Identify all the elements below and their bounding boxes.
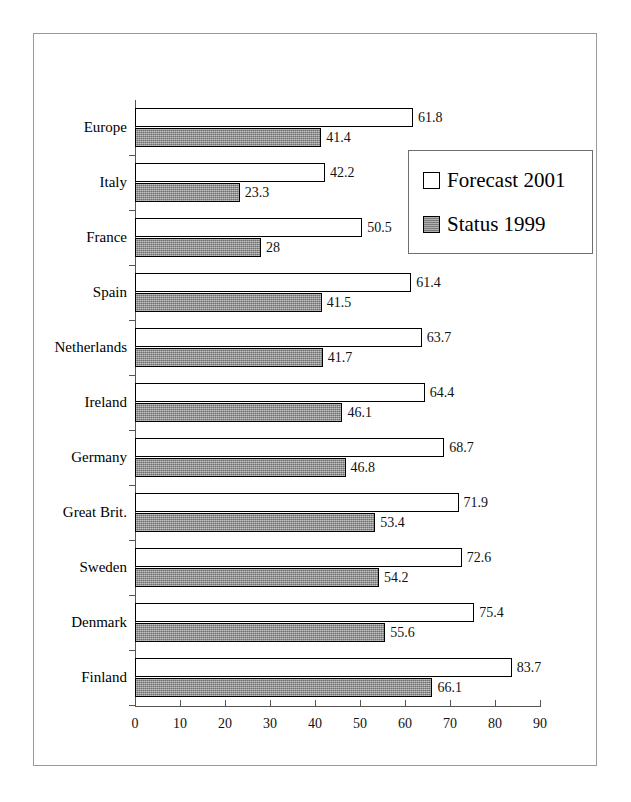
legend-item-forecast-2001: Forecast 2001 [423, 165, 565, 195]
y-axis-label-europe: Europe [7, 118, 127, 136]
y-axis-label-ireland: Ireland [7, 393, 127, 411]
bar-status-1999 [135, 403, 342, 422]
bar-group: 63.741.7 [135, 328, 540, 367]
bar-value-label: 71.9 [464, 493, 489, 512]
bar-status-1999 [135, 183, 240, 202]
bar-value-label: 83.7 [517, 658, 542, 677]
x-axis-tick-label: 0 [115, 716, 155, 732]
bar-value-label: 50.5 [367, 218, 392, 237]
x-axis-tick [495, 700, 496, 707]
bar-forecast-2001 [135, 273, 411, 292]
y-axis-label-netherlands: Netherlands [7, 338, 127, 356]
bar-group: 75.455.6 [135, 603, 540, 642]
bar-forecast-2001 [135, 383, 425, 402]
x-axis-tick-label: 70 [430, 716, 470, 732]
bar-forecast-2001 [135, 548, 462, 567]
bar-status-1999 [135, 513, 375, 532]
bar-value-label: 75.4 [479, 603, 504, 622]
bar-value-label: 68.7 [449, 438, 474, 457]
x-axis-tick [180, 700, 181, 707]
bar-value-label: 23.3 [245, 183, 270, 202]
legend-label-forecast: Forecast 2001 [447, 170, 565, 191]
x-axis-tick-label: 60 [385, 716, 425, 732]
bar-group: 71.953.4 [135, 493, 540, 532]
x-axis-tick [315, 700, 316, 707]
x-axis-tick [405, 700, 406, 707]
x-axis-tick [270, 700, 271, 707]
bar-status-1999 [135, 128, 321, 147]
bar-group: 61.441.5 [135, 273, 540, 312]
legend-swatch-forecast-icon [423, 172, 440, 189]
x-axis-tick [225, 700, 226, 707]
bar-value-label: 46.8 [351, 458, 376, 477]
bar-forecast-2001 [135, 328, 422, 347]
y-axis-label-sweden: Sweden [7, 558, 127, 576]
x-axis-tick-label: 30 [250, 716, 290, 732]
y-axis-label-finland: Finland [7, 668, 127, 686]
bar-forecast-2001 [135, 438, 444, 457]
x-axis-tick [360, 700, 361, 707]
bar-value-label: 28 [266, 238, 280, 257]
y-axis-label-spain: Spain [7, 283, 127, 301]
bar-group: 83.766.1 [135, 658, 540, 697]
bar-value-label: 41.7 [328, 348, 353, 367]
bar-value-label: 54.2 [384, 568, 409, 587]
bar-value-label: 61.8 [418, 108, 443, 127]
bar-value-label: 41.5 [327, 293, 352, 312]
y-axis-label-italy: Italy [7, 173, 127, 191]
x-axis-tick [450, 700, 451, 707]
x-axis-tick [135, 700, 136, 707]
x-axis-tick-label: 10 [160, 716, 200, 732]
bar-forecast-2001 [135, 108, 413, 127]
bar-group: 61.841.4 [135, 108, 540, 147]
y-axis-label-great-brit: Great Brit. [7, 503, 127, 521]
bar-forecast-2001 [135, 603, 474, 622]
bar-group: 72.654.2 [135, 548, 540, 587]
bar-status-1999 [135, 348, 323, 367]
bar-value-label: 46.1 [347, 403, 372, 422]
x-axis-tick-label: 40 [295, 716, 335, 732]
bar-status-1999 [135, 623, 385, 642]
x-axis-tick-label: 20 [205, 716, 245, 732]
bar-group: 64.446.1 [135, 383, 540, 422]
bar-value-label: 72.6 [467, 548, 492, 567]
bar-group: 68.746.8 [135, 438, 540, 477]
chart-figure: EuropeItalyFranceSpainNetherlandsIreland… [0, 0, 631, 802]
bar-status-1999 [135, 293, 322, 312]
legend-label-status: Status 1999 [447, 214, 546, 235]
bar-forecast-2001 [135, 163, 325, 182]
bar-value-label: 53.4 [380, 513, 405, 532]
bar-forecast-2001 [135, 218, 362, 237]
y-axis-label-germany: Germany [7, 448, 127, 466]
x-axis-line [135, 706, 541, 707]
bar-forecast-2001 [135, 658, 512, 677]
legend-item-status-1999: Status 1999 [423, 209, 546, 239]
bar-value-label: 41.4 [326, 128, 351, 147]
x-axis-tick-label: 90 [520, 716, 560, 732]
bar-value-label: 42.2 [330, 163, 355, 182]
bar-value-label: 63.7 [427, 328, 452, 347]
bar-value-label: 61.4 [416, 273, 441, 292]
bar-status-1999 [135, 678, 432, 697]
y-axis-category-labels: EuropeItalyFranceSpainNetherlandsIreland… [5, 100, 127, 705]
bar-value-label: 66.1 [437, 678, 462, 697]
x-axis-tick [540, 700, 541, 707]
x-axis-tick-label: 80 [475, 716, 515, 732]
bar-value-label: 64.4 [430, 383, 455, 402]
y-axis-label-france: France [7, 228, 127, 246]
bar-forecast-2001 [135, 493, 459, 512]
y-axis-label-denmark: Denmark [7, 613, 127, 631]
chart-legend: Forecast 2001 Status 1999 [408, 150, 593, 254]
bar-status-1999 [135, 238, 261, 257]
x-axis-tick-label: 50 [340, 716, 380, 732]
bar-value-label: 55.6 [390, 623, 415, 642]
legend-swatch-status-icon [423, 216, 440, 233]
bar-status-1999 [135, 568, 379, 587]
bar-status-1999 [135, 458, 346, 477]
